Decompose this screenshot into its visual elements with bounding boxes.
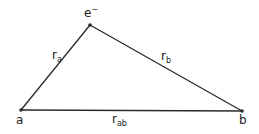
edge-electron-to-b xyxy=(90,25,242,111)
edge-label-rb: rb xyxy=(161,49,171,65)
diagram-canvas: a e− b ra rb rab xyxy=(0,0,259,134)
edge-label-ra: ra xyxy=(52,48,62,64)
point-a-label: a xyxy=(16,113,23,127)
edge-a-to-electron xyxy=(21,25,90,110)
electron-charge-superscript: − xyxy=(91,5,98,14)
triangle-diagram: a e− b ra rb rab xyxy=(0,0,259,134)
point-b-label: b xyxy=(239,113,247,127)
point-electron-label: e− xyxy=(84,5,98,20)
edge-a-to-b xyxy=(21,110,242,111)
edge-label-rab: rab xyxy=(112,112,127,128)
point-a-dot xyxy=(19,108,23,112)
point-electron-dot xyxy=(88,23,92,27)
